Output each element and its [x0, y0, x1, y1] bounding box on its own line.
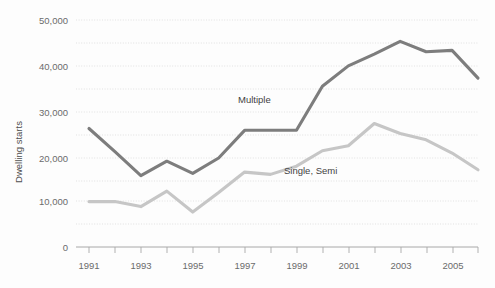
- x-tick-label-1991: 1991: [78, 260, 99, 271]
- y-tick-label-40000: 40,000: [39, 61, 68, 72]
- x-tick-label-2005: 2005: [442, 260, 463, 271]
- y-axis-tick-labels: 50,000 40,000 30,000 20,000 10,000 0: [39, 15, 68, 253]
- chart-container: 50,000 40,000 30,000 20,000 10,000 0 Dwe…: [0, 0, 495, 288]
- y-tick-label-20000: 20,000: [39, 153, 68, 164]
- y-tick-label-0: 0: [63, 242, 68, 253]
- gridlines-minor: [76, 43, 478, 224]
- line-chart: 50,000 40,000 30,000 20,000 10,000 0 Dwe…: [0, 0, 495, 288]
- y-tick-label-50000: 50,000: [39, 15, 68, 26]
- x-tick-label-2003: 2003: [390, 260, 411, 271]
- y-tick-label-10000: 10,000: [39, 196, 68, 207]
- x-tick-label-1999: 1999: [286, 260, 307, 271]
- y-tick-label-30000: 30,000: [39, 107, 68, 118]
- series-line-multiple: [89, 41, 478, 175]
- x-axis-tick-marks: [89, 247, 478, 253]
- x-tick-label-2001: 2001: [338, 260, 359, 271]
- x-tick-label-1995: 1995: [182, 260, 203, 271]
- series-label-multiple: Multiple: [238, 94, 271, 105]
- x-tick-label-1993: 1993: [130, 260, 151, 271]
- x-tick-label-1997: 1997: [234, 260, 255, 271]
- x-axis-tick-labels: 1991 1993 1995 1997 1999 2001 2003 2005: [78, 260, 463, 271]
- y-axis-title: Dwelling starts: [13, 121, 24, 183]
- series-label-single-semi: Single, Semi: [284, 165, 337, 176]
